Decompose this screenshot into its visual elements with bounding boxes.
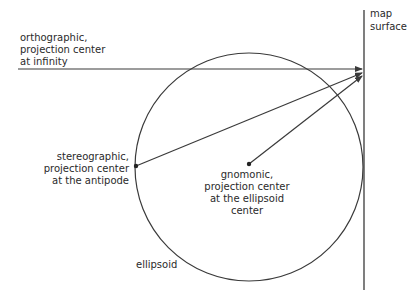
stereographic-ray [136, 73, 362, 166]
stereographic-label-line: projection center [44, 163, 130, 174]
stereographic-center-dot [134, 164, 138, 168]
map-surface-label-line: map [370, 8, 392, 19]
map-surface-label-line: surface [370, 21, 407, 32]
stereographic-label-line: at the antipode [52, 175, 129, 186]
orthographic-label-line: projection center [20, 44, 106, 55]
gnomonic-label-line: gnomonic, [221, 169, 273, 180]
orthographic-label-line: orthographic, [20, 32, 87, 43]
gnomonic-label-line: projection center [204, 181, 290, 192]
stereographic-label-line: stereographic, [57, 151, 129, 162]
map-surface-label: map surface [370, 8, 407, 32]
projection-diagram: orthographic, projection center at infin… [0, 0, 417, 304]
orthographic-label-line: at infinity [20, 56, 68, 67]
gnomonic-center-dot [247, 162, 251, 166]
gnomonic-label-line: at the ellipsoid [210, 193, 284, 204]
gnomonic-label-line: center [231, 205, 264, 216]
orthographic-label: orthographic, projection center at infin… [20, 32, 106, 67]
ellipsoid-label: ellipsoid [136, 259, 177, 270]
gnomonic-label: gnomonic, projection center at the ellip… [204, 169, 290, 216]
gnomonic-ray [249, 76, 362, 164]
stereographic-label: stereographic, projection center at the … [44, 151, 130, 186]
